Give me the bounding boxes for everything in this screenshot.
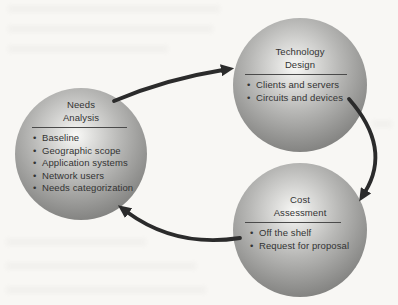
network-design-cycle-diagram: Needs Analysis Baseline Geographic scope… bbox=[0, 0, 398, 305]
node-title: Cost Assessment bbox=[233, 194, 367, 219]
arrow-needs-to-technology bbox=[114, 70, 223, 101]
bullet-item: Circuits and devices bbox=[247, 92, 363, 105]
node-title-line: Cost bbox=[233, 194, 367, 207]
scan-bleed-artifact bbox=[8, 45, 168, 53]
title-divider bbox=[245, 222, 341, 223]
title-divider bbox=[32, 127, 127, 128]
node-title-line: Needs bbox=[15, 99, 147, 112]
bullet-item: Geographic scope bbox=[33, 145, 143, 158]
node-title: Technology Design bbox=[233, 46, 367, 71]
bullet-item: Baseline bbox=[33, 132, 143, 145]
node-cost-assessment: Cost Assessment Off the shelf Request fo… bbox=[233, 163, 367, 297]
scan-bleed-artifact bbox=[372, 120, 392, 128]
node-title-line: Technology bbox=[233, 46, 367, 59]
bullet-item: Off the shelf bbox=[250, 227, 363, 240]
node-technology-design: Technology Design Clients and servers Ci… bbox=[233, 18, 367, 152]
bullet-list: Clients and servers Circuits and devices bbox=[233, 78, 367, 104]
node-title-line: Design bbox=[233, 59, 367, 72]
bullet-list: Baseline Geographic scope Application sy… bbox=[15, 131, 147, 195]
bullet-list: Off the shelf Request for proposal bbox=[233, 226, 367, 252]
bullet-item: Request for proposal bbox=[250, 240, 363, 253]
scan-bleed-artifact bbox=[6, 262, 196, 270]
scan-bleed-artifact bbox=[8, 25, 213, 33]
bullet-item: Clients and servers bbox=[247, 79, 363, 92]
bullet-item: Application systems bbox=[33, 157, 143, 170]
title-divider bbox=[245, 74, 347, 75]
bullet-item: Network users bbox=[33, 170, 143, 183]
scan-bleed-artifact bbox=[8, 5, 220, 13]
node-needs-analysis: Needs Analysis Baseline Geographic scope… bbox=[15, 88, 147, 220]
node-title-line: Analysis bbox=[15, 112, 147, 125]
arrow-cost-to-needs bbox=[127, 212, 240, 240]
node-title: Needs Analysis bbox=[15, 99, 147, 124]
scan-bleed-artifact bbox=[6, 286, 206, 294]
node-title-line: Assessment bbox=[233, 207, 367, 220]
bullet-item: Needs categorization bbox=[33, 182, 143, 195]
scan-bleed-artifact bbox=[6, 238, 146, 246]
